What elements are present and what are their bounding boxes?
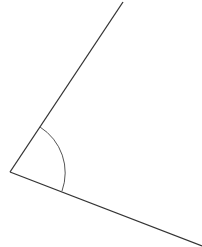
upper-ray	[10, 2, 123, 172]
angle-arc	[40, 127, 65, 191]
angle-diagram	[0, 0, 202, 247]
lower-ray	[10, 172, 202, 246]
